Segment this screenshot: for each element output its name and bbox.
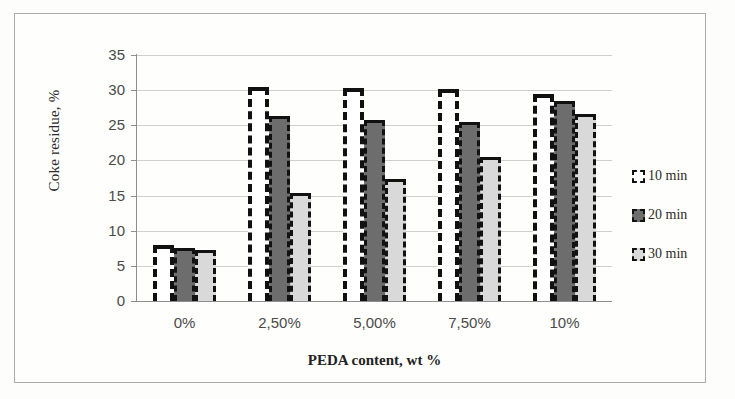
y-axis-tick [131,231,137,232]
bar-outline [343,88,364,301]
y-axis-tick-label: 35 [85,46,125,63]
x-axis-tick-label: 7,50% [422,314,517,331]
bar-group [517,55,612,301]
y-axis-tick [131,55,137,56]
bar-outline [153,245,174,301]
bar [364,120,385,301]
y-axis-tick-label: 15 [85,187,125,204]
y-axis-tick [131,266,137,267]
y-axis-tick [131,160,137,161]
gridline [137,301,612,302]
y-axis-tick-label: 30 [85,81,125,98]
x-axis-tick-labels: 0%2,50%5,00%7,50%10% [137,314,612,340]
bar [290,193,311,301]
bar-outline [174,248,195,301]
bar-group [137,55,232,301]
y-axis-tick [131,125,137,126]
bar-outline [269,116,290,301]
legend-item[interactable]: 10 min [632,166,732,186]
bar [554,101,575,301]
bar [459,122,480,301]
bar [269,116,290,301]
legend-item[interactable]: 30 min [632,244,732,264]
bar [343,88,364,301]
bar-outline [385,179,406,301]
bar-outline [248,87,269,301]
y-axis-tick-label: 5 [85,257,125,274]
bar-outline [575,114,596,301]
bar [174,248,195,301]
bar [153,245,174,301]
x-axis-tick-label: 0% [137,314,232,331]
bar-outline [459,122,480,301]
y-axis-tick [131,90,137,91]
chart-page: Coke residue, % 05101520253035 0%2,50%5,… [0,0,735,399]
legend-swatch-outline [632,248,645,261]
bar-outline [290,193,311,301]
x-axis-tick-label: 2,50% [232,314,327,331]
legend-label: 30 min [648,246,687,262]
legend-swatch-outline [632,209,645,222]
y-axis-tick [131,301,137,302]
legend-label: 20 min [648,207,687,223]
figure-frame: Coke residue, % 05101520253035 0%2,50%5,… [14,13,706,383]
y-axis-tick-label: 0 [85,292,125,309]
bar-outline [195,250,216,301]
bar-group [327,55,422,301]
bar [480,157,501,301]
bar-group [232,55,327,301]
y-axis-tick-label: 10 [85,222,125,239]
bar-group [422,55,517,301]
legend-item[interactable]: 20 min [632,205,732,225]
plot-area [137,55,612,301]
bar [385,179,406,301]
y-axis-tick-label: 25 [85,116,125,133]
legend-swatch [632,209,645,222]
y-axis-tick [131,196,137,197]
x-axis-title: PEDA content, wt % [137,352,612,369]
bar [195,250,216,301]
x-axis-tick-label: 5,00% [327,314,422,331]
bar [438,89,459,301]
y-axis-tick-label: 20 [85,151,125,168]
x-axis-tick-label: 10% [517,314,612,331]
legend-label: 10 min [648,168,687,184]
legend-swatch [632,248,645,261]
legend-swatch-outline [632,170,645,183]
bar [248,87,269,301]
chart-legend: 10 min20 min30 min [632,166,732,283]
bar [533,94,554,301]
y-axis-tick-labels: 05101520253035 [77,55,125,301]
bar-outline [533,94,554,301]
legend-swatch [632,170,645,183]
bar-outline [364,120,385,301]
bar-outline [554,101,575,301]
y-axis-title: Coke residue, % [46,56,63,226]
bar [575,114,596,301]
bar-outline [438,89,459,301]
bar-outline [480,157,501,301]
